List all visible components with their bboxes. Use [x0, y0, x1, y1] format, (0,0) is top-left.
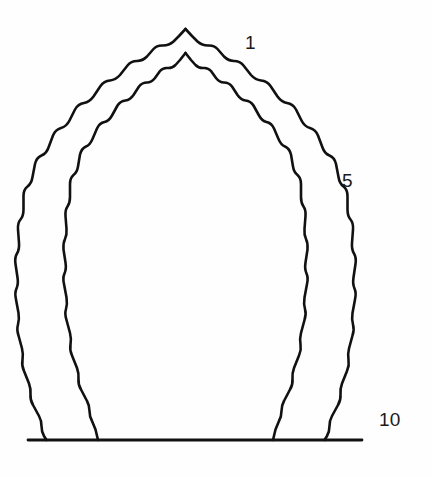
cusp-label-1: 1: [245, 33, 256, 52]
arch-figure: 1 5 10: [0, 0, 431, 477]
cusped-arch-drawing: [0, 0, 431, 477]
cusp-label-10: 10: [379, 410, 401, 429]
cusp-label-5: 5: [342, 171, 353, 190]
